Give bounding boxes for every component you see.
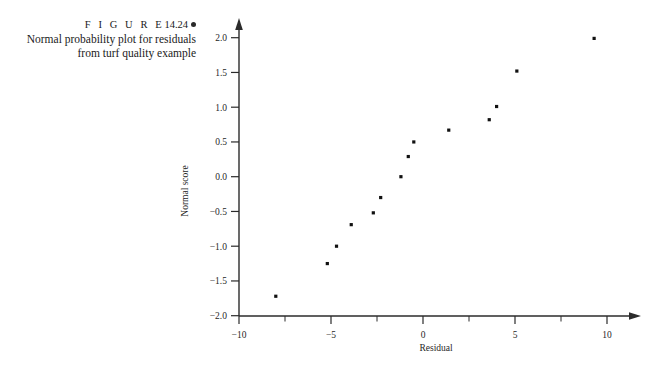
- x-tick-label: −10: [232, 330, 247, 340]
- data-point: [593, 37, 596, 40]
- x-axis-title: Residual: [419, 343, 453, 353]
- data-point: [495, 105, 498, 108]
- data-point: [447, 129, 450, 132]
- y-tick-label: 2.0: [215, 33, 227, 43]
- x-axis-ticks: [239, 316, 607, 324]
- x-axis-tick-labels: −10−50510: [232, 330, 612, 340]
- normal-probability-plot: −2.0−1.5−1.0−0.50.00.51.01.52.0 Normal s…: [0, 0, 652, 373]
- data-point: [407, 155, 410, 158]
- x-tick-label: 5: [513, 330, 518, 340]
- x-tick-label: −5: [326, 330, 336, 340]
- y-axis-title: Normal score: [180, 165, 190, 216]
- y-tick-label: −1.5: [210, 276, 227, 286]
- y-tick-label: −1.0: [210, 242, 227, 252]
- data-point: [350, 223, 353, 226]
- x-tick-label: 10: [602, 330, 612, 340]
- y-tick-label: −0.5: [210, 207, 227, 217]
- x-axis: −10−50510 Residual: [232, 312, 641, 353]
- y-axis-arrowhead-icon: [235, 18, 243, 30]
- data-point: [379, 196, 382, 199]
- data-point: [326, 262, 329, 265]
- scatter-points: [274, 37, 596, 298]
- y-axis-ticks: [231, 38, 239, 316]
- y-tick-label: 1.5: [215, 68, 227, 78]
- data-point: [335, 245, 338, 248]
- x-tick-label: 0: [421, 330, 426, 340]
- data-point: [515, 69, 518, 72]
- data-point: [372, 211, 375, 214]
- data-point: [274, 295, 277, 298]
- y-tick-label: 0.5: [215, 137, 227, 147]
- data-point: [399, 175, 402, 178]
- y-tick-label: 0.0: [215, 172, 227, 182]
- data-point: [488, 118, 491, 121]
- data-point: [412, 140, 415, 143]
- y-axis-tick-labels: −2.0−1.5−1.0−0.50.00.51.01.52.0: [210, 33, 227, 321]
- y-tick-label: −2.0: [210, 311, 227, 321]
- y-tick-label: 1.0: [215, 103, 227, 113]
- x-axis-arrowhead-icon: [629, 312, 641, 320]
- y-axis: −2.0−1.5−1.0−0.50.00.51.01.52.0 Normal s…: [180, 18, 243, 321]
